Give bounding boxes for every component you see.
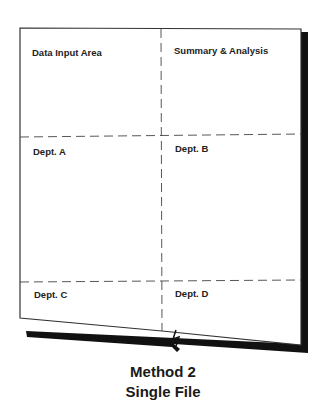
label-dept-c: Dept. C: [34, 289, 67, 300]
label-dept-a: Dept. A: [33, 146, 66, 157]
label-data-input-area: Data Input Area: [32, 47, 102, 58]
label-dept-b: Dept. B: [175, 143, 208, 154]
label-summary-analysis: Summary & Analysis: [174, 45, 268, 56]
single-file-sheet: [0, 0, 326, 404]
caption-method: Method 2: [0, 362, 326, 382]
label-dept-d: Dept. D: [175, 288, 208, 299]
caption-single-file: Single File: [0, 382, 326, 402]
